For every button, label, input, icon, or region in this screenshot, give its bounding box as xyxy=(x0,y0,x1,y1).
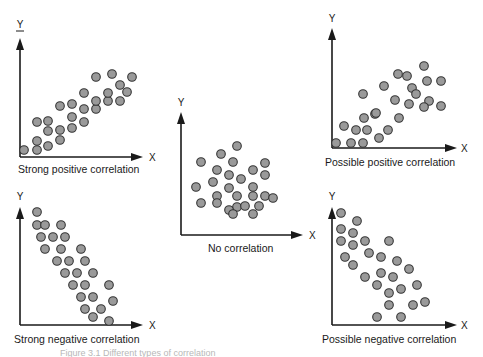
y-axis-arrow-icon xyxy=(328,207,336,219)
data-point xyxy=(373,313,382,322)
data-points xyxy=(20,70,137,155)
data-point xyxy=(237,175,246,184)
data-point xyxy=(413,281,422,290)
data-point xyxy=(57,245,66,254)
data-point xyxy=(385,301,394,310)
data-point xyxy=(89,313,98,322)
data-point xyxy=(405,265,414,274)
x-axis-arrow-icon xyxy=(445,321,457,329)
data-point xyxy=(33,137,42,146)
data-point xyxy=(352,126,361,135)
data-point xyxy=(363,126,372,135)
data-point xyxy=(81,257,90,266)
data-point xyxy=(389,273,398,282)
scatter-panel-possible-positive: YXPossible positive correlation xyxy=(325,13,468,168)
data-point xyxy=(412,90,421,99)
data-point xyxy=(420,103,429,112)
data-point xyxy=(375,134,384,143)
data-point xyxy=(213,199,222,208)
data-point xyxy=(225,171,234,180)
data-point xyxy=(405,100,414,109)
data-point xyxy=(233,192,242,201)
data-point xyxy=(61,269,70,278)
data-point xyxy=(261,159,270,168)
data-point xyxy=(69,281,78,290)
y-axis-arrow-icon xyxy=(177,112,185,124)
data-point xyxy=(385,237,394,246)
data-point xyxy=(92,105,101,114)
data-point xyxy=(116,97,125,106)
data-point xyxy=(20,146,29,155)
data-point xyxy=(33,118,42,127)
data-point xyxy=(341,253,350,262)
scatter-panel-possible-negative: YXPossible negative correlation xyxy=(322,191,468,345)
data-point xyxy=(73,269,82,278)
data-point xyxy=(89,293,98,302)
data-point xyxy=(56,126,65,135)
data-point xyxy=(437,102,446,111)
data-points xyxy=(337,209,430,322)
data-point xyxy=(249,183,258,192)
data-point xyxy=(80,118,89,127)
panel-caption: Possible negative correlation xyxy=(322,333,456,345)
y-axis-label: Y xyxy=(17,191,24,202)
data-point xyxy=(423,77,432,86)
data-point xyxy=(44,142,53,151)
scatter-panel-strong-positive: YXStrong positive correlation xyxy=(16,19,156,175)
panel-caption: No correlation xyxy=(208,242,274,254)
data-point xyxy=(409,301,418,310)
data-point xyxy=(393,257,402,266)
data-point xyxy=(359,90,368,99)
data-point xyxy=(44,127,53,136)
data-point xyxy=(337,237,346,246)
x-axis-label: X xyxy=(461,143,468,154)
correlation-diagram: YXStrong positive correlationYXStrong ne… xyxy=(0,0,483,357)
data-point xyxy=(49,233,58,242)
data-point xyxy=(77,293,86,302)
scatter-panel-strong-negative: YXStrong negative correlation xyxy=(14,191,156,345)
data-points xyxy=(192,142,278,219)
figure-caption-partial: Figure 3.1 Different types of correlatio… xyxy=(60,348,215,357)
data-point xyxy=(192,183,201,192)
data-point xyxy=(81,305,90,314)
data-point xyxy=(261,171,270,180)
data-point xyxy=(37,233,46,242)
data-point xyxy=(56,136,65,145)
data-point xyxy=(104,89,113,98)
data-point xyxy=(41,221,50,230)
data-point xyxy=(197,199,206,208)
data-point xyxy=(403,72,412,81)
data-point xyxy=(53,257,62,266)
data-point xyxy=(68,124,77,133)
data-point xyxy=(33,146,42,155)
data-point xyxy=(217,150,226,159)
data-point xyxy=(241,202,250,211)
data-point xyxy=(397,285,406,294)
y-axis-label: Y xyxy=(329,191,336,202)
data-point xyxy=(233,142,242,151)
data-point xyxy=(249,192,258,201)
y-axis-arrow-icon xyxy=(16,38,24,50)
data-point xyxy=(377,253,386,262)
data-point xyxy=(353,217,362,226)
data-point xyxy=(44,117,53,126)
data-point xyxy=(109,297,118,306)
data-point xyxy=(128,73,137,82)
y-axis-label: Y xyxy=(17,19,24,30)
data-points xyxy=(33,208,118,326)
data-point xyxy=(347,139,356,148)
data-point xyxy=(359,139,368,148)
data-point xyxy=(105,281,114,290)
data-point xyxy=(77,245,86,254)
data-point xyxy=(337,209,346,218)
x-axis-arrow-icon xyxy=(131,153,143,161)
data-point xyxy=(229,210,238,219)
data-point xyxy=(421,298,430,307)
data-point xyxy=(68,113,77,122)
data-point xyxy=(33,221,42,230)
data-point xyxy=(394,70,403,79)
data-point xyxy=(229,158,238,167)
x-axis-label: X xyxy=(461,320,468,331)
data-point xyxy=(213,166,222,175)
y-axis-arrow-icon xyxy=(16,207,24,219)
